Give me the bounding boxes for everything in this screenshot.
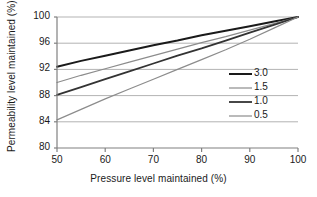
legend-item-label: 0.5 [254,109,268,120]
y-tick-label: 84 [26,115,50,126]
x-tick-label: 90 [237,154,263,165]
x-tick-label: 80 [189,154,215,165]
legend-swatch-lines [229,74,252,116]
chart-figure: 8084889296100 5060708090100 3.01.51.00.5… [0,0,317,197]
series-line [57,17,298,67]
y-tick-label: 88 [26,89,50,100]
legend-item-label: 1.0 [254,95,268,106]
y-tick-label: 92 [26,62,50,73]
legend-item-label: 1.5 [254,81,268,92]
y-axis-title: Permeability level maintained (%) [6,2,17,152]
x-tick-label: 50 [44,154,70,165]
x-tick-label: 100 [285,154,311,165]
x-tick-label: 60 [92,154,118,165]
y-tick-label: 80 [26,141,50,152]
y-axis-title-container: Permeability level maintained (%) [6,2,20,152]
x-tick-marks [57,148,298,152]
x-tick-label: 70 [140,154,166,165]
y-tick-label: 100 [26,10,50,21]
legend-item-label: 3.0 [254,67,268,78]
y-tick-label: 96 [26,36,50,47]
x-axis-title: Pressure level maintained (%) [0,173,317,184]
